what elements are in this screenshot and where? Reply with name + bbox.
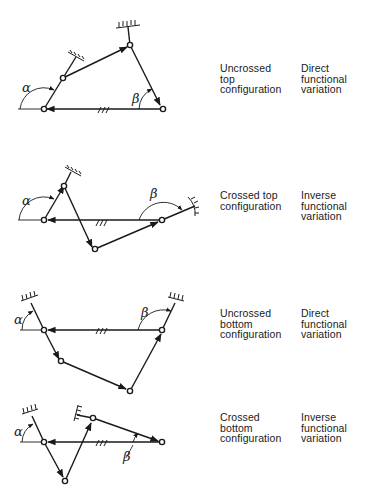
output-rocker	[130, 334, 161, 391]
fixed-support-icon	[68, 50, 84, 61]
ground-hatch-icon	[96, 220, 107, 226]
variation-caption-uncrossed-bottom: Direct functional variation	[301, 308, 347, 340]
caption-line: variation	[301, 329, 347, 340]
ground-hatch-icon	[96, 328, 107, 334]
fixed-support-icon	[65, 165, 81, 176]
beta-label: β	[140, 305, 149, 320]
caption-line: Crossed	[220, 412, 281, 423]
fixed-support-icon	[116, 20, 140, 28]
caption-line: Direct	[301, 308, 347, 319]
diagram-uncrossed-top	[18, 20, 166, 113]
coupler-link	[61, 361, 126, 389]
ground-hatch-icon	[98, 107, 109, 113]
caption-line: Inverse	[301, 412, 347, 423]
fixed-support-icon	[21, 291, 38, 301]
variation-caption-uncrossed-top: Direct functional variation	[301, 63, 347, 95]
configuration-caption-uncrossed-top: Uncrossed top configuration	[220, 63, 281, 95]
alpha-label: α	[22, 80, 31, 95]
fixed-support-icon	[168, 292, 184, 301]
beta-label: β	[122, 449, 131, 464]
alpha-label: α	[14, 312, 23, 327]
caption-line: variation	[301, 84, 347, 95]
input-crank	[44, 442, 63, 477]
caption-line: Uncrossed	[220, 308, 281, 319]
fixed-support-icon	[74, 405, 82, 421]
diagram-crossed-bottom	[20, 404, 165, 484]
output-rocker	[93, 418, 158, 441]
caption-line: variation	[301, 433, 347, 444]
beta-label: β	[131, 91, 140, 106]
alpha-label: α	[14, 424, 23, 439]
coupler-link	[64, 186, 92, 247]
variation-caption-crossed-top: Inverse functional variation	[301, 190, 347, 222]
input-crank	[44, 78, 63, 109]
caption-line: Uncrossed	[220, 63, 281, 74]
fixed-support-icon	[188, 197, 199, 216]
input-crank	[44, 186, 64, 220]
caption-line: Crossed top	[220, 190, 281, 201]
caption-line: Direct	[301, 63, 347, 74]
variation-caption-crossed-bottom: Inverse functional variation	[301, 412, 347, 444]
caption-line: variation	[301, 211, 347, 222]
fixed-support-icon	[22, 404, 38, 414]
ground-hatch-icon	[96, 440, 107, 446]
configuration-caption-crossed-bottom: Crossed bottom configuration	[220, 412, 281, 444]
coupler-link	[65, 423, 91, 481]
diagram-crossed-top	[18, 165, 199, 252]
diagram-uncrossed-bottom	[20, 291, 184, 394]
beta-label: β	[149, 186, 158, 201]
caption-line: configuration	[220, 84, 281, 95]
input-crank	[44, 330, 59, 359]
caption-line: Inverse	[301, 190, 347, 201]
alpha-label: α	[22, 193, 31, 208]
caption-line: configuration	[220, 329, 281, 340]
beta-arc	[139, 89, 152, 109]
caption-line: configuration	[220, 433, 281, 444]
configuration-caption-crossed-top: Crossed top configuration	[220, 190, 281, 211]
configuration-caption-uncrossed-bottom: Uncrossed bottom configuration	[220, 308, 281, 340]
four-bar-linkage-configurations-figure: α β α β	[0, 0, 372, 503]
caption-line: configuration	[220, 201, 281, 212]
